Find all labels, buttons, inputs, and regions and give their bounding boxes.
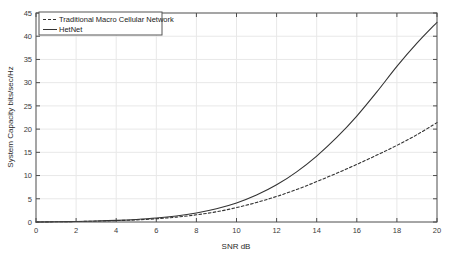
x-tick-label: 0: [34, 226, 38, 235]
legend-label-1: HetNet: [59, 25, 83, 34]
y-tick-label: 5: [28, 195, 32, 204]
chart-canvas: 02468101214161820 051015202530354045 SNR…: [0, 0, 456, 255]
x-tick-label: 12: [272, 226, 280, 235]
y-tick-label: 30: [24, 78, 32, 87]
y-tick-labels: 051015202530354045: [24, 9, 32, 227]
x-tick-label: 20: [433, 226, 441, 235]
y-tick-label: 0: [28, 218, 32, 227]
y-tick-label: 20: [24, 125, 32, 134]
chart-figure: 02468101214161820 051015202530354045 SNR…: [0, 0, 456, 255]
x-tick-label: 14: [313, 226, 321, 235]
y-axis-title: System Capacity bits/sec/Hz: [6, 66, 15, 167]
x-axis-title: SNR dB: [222, 242, 251, 251]
x-tick-label: 6: [154, 226, 158, 235]
x-tick-label: 10: [232, 226, 240, 235]
y-tick-label: 35: [24, 55, 32, 64]
y-tick-label: 25: [24, 102, 32, 111]
y-tick-label: 40: [24, 32, 32, 41]
y-tick-label: 45: [24, 9, 32, 18]
x-tick-label: 2: [74, 226, 78, 235]
legend[interactable]: Traditional Macro Cellular Network HetNe…: [39, 12, 174, 35]
legend-label-0: Traditional Macro Cellular Network: [59, 15, 174, 24]
x-tick-labels: 02468101214161820: [34, 226, 441, 235]
x-tick-label: 8: [194, 226, 198, 235]
x-tick-label: 18: [393, 226, 401, 235]
y-tick-label: 15: [24, 148, 32, 157]
y-tick-label: 10: [24, 171, 32, 180]
x-tick-label: 16: [353, 226, 361, 235]
x-tick-label: 4: [114, 226, 118, 235]
